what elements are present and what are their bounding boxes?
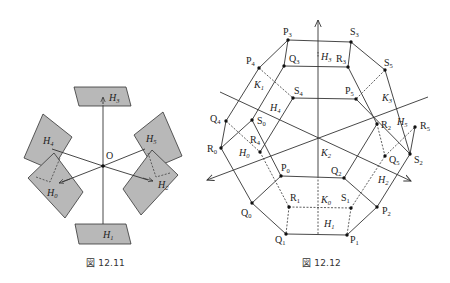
label-r3: R3 [336, 53, 346, 65]
figure-12-11: O H3 H4 H5 H0 H2 H1 [24, 87, 182, 244]
label-s5: S5 [384, 57, 393, 69]
plane-h3 [74, 87, 131, 106]
label-p0: P0 [281, 162, 290, 174]
origin-point [101, 164, 105, 168]
face-k0: K0 [320, 194, 332, 206]
caption-fig-12-11: 図 12.11 [86, 256, 125, 269]
label-q3: Q3 [289, 53, 299, 65]
figure-canvas: O H3 H4 H5 H0 H2 H1 [0, 0, 450, 283]
face-h3: H3 [320, 51, 332, 63]
label-p2: P2 [382, 205, 391, 217]
label-q4: Q4 [210, 113, 221, 125]
face-h5: H5 [396, 116, 408, 128]
label-s2: S2 [414, 154, 423, 166]
label-r0: R0 [207, 143, 217, 155]
face-k3: K3 [381, 92, 393, 104]
label-r4: R4 [250, 134, 261, 146]
label-r5: R5 [420, 120, 430, 132]
label-s3: S3 [350, 26, 359, 38]
label-q1: Q1 [275, 234, 285, 246]
vertex-labels: P3 S3 Q3 R3 P4 S5 S4 P5 Q4 S0 R2 R5 R0 R… [207, 26, 430, 246]
caption-fig-12-12: 図 12.12 [302, 256, 341, 269]
face-h1: H1 [323, 218, 334, 230]
label-s0: S0 [257, 115, 266, 127]
label-r1: R1 [290, 192, 300, 204]
label-q5: Q5 [389, 154, 399, 166]
face-h2: H2 [377, 174, 389, 186]
label-r2: R2 [381, 119, 391, 131]
axis-diag-a [220, 92, 411, 181]
label-s4: S4 [294, 85, 304, 97]
face-h4: H4 [269, 102, 281, 114]
face-k1: K1 [253, 79, 264, 91]
figure-12-12 [207, 20, 428, 237]
label-p5: P5 [345, 85, 354, 97]
label-p4: P4 [246, 55, 256, 67]
origin-label: O [106, 150, 113, 161]
label-s1: S1 [341, 192, 350, 204]
label-q2: Q2 [331, 165, 341, 177]
label-p1: P1 [350, 234, 359, 246]
face-h0: H0 [238, 147, 250, 159]
face-k2: K2 [320, 147, 332, 159]
label-p3: P3 [283, 26, 292, 38]
label-q0: Q0 [241, 207, 251, 219]
